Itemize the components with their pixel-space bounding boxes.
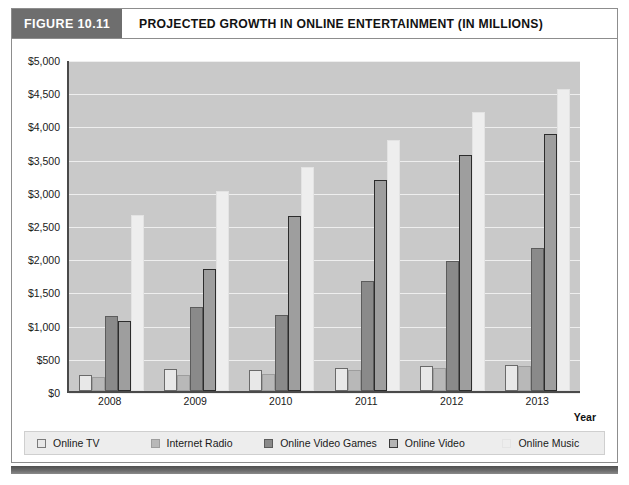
series-1-swatch: [151, 439, 160, 448]
y-axis-tick: $3,500: [28, 155, 60, 167]
x-axis-title: Year: [574, 411, 596, 423]
bar-group: [154, 61, 239, 391]
x-axis-tick: 2012: [409, 395, 495, 407]
legend-item[interactable]: Online Music: [490, 437, 604, 449]
bar-groups: [69, 61, 580, 391]
bar: [557, 89, 570, 391]
bar: [249, 370, 262, 391]
y-axis-labels: $0$500$1,000$1,500$2,000$2,500$3,000$3,5…: [12, 61, 64, 393]
y-axis-tick: $2,000: [28, 254, 60, 266]
bar: [446, 261, 459, 391]
y-axis-tick: $3,000: [28, 188, 60, 200]
bar: [301, 167, 314, 391]
bar: [262, 374, 275, 391]
y-axis-tick: $5,000: [28, 55, 60, 67]
y-axis-tick: $4,000: [28, 121, 60, 133]
bar: [420, 366, 433, 391]
legend-label: Online Music: [518, 437, 579, 449]
legend-item[interactable]: Online Video: [377, 437, 491, 449]
bar: [79, 375, 92, 391]
bar: [518, 366, 531, 391]
figure-card: FIGURE 10.11 PROJECTED GROWTH IN ONLINE …: [11, 8, 618, 463]
x-axis-tick: 2010: [238, 395, 324, 407]
bar: [387, 140, 400, 391]
bottom-rule: [11, 466, 618, 474]
x-axis-tick: 2013: [495, 395, 581, 407]
bar: [275, 315, 288, 391]
bar: [433, 368, 446, 391]
bar: [361, 281, 374, 391]
chart-legend: Online TVInternet RadioOnline Video Game…: [24, 431, 605, 455]
bar: [335, 368, 348, 391]
series-2-swatch: [264, 439, 273, 448]
legend-label: Online Video: [405, 437, 465, 449]
figure-title: PROJECTED GROWTH IN ONLINE ENTERTAINMENT…: [122, 9, 617, 38]
x-axis-tick: 2011: [324, 395, 410, 407]
bar: [505, 365, 518, 391]
bar: [348, 370, 361, 391]
bar: [459, 155, 472, 391]
bar: [190, 307, 203, 391]
series-0-swatch: [37, 439, 46, 448]
y-axis-tick: $4,500: [28, 88, 60, 100]
bar: [203, 269, 216, 391]
x-axis-tick: 2008: [67, 395, 153, 407]
legend-item[interactable]: Internet Radio: [139, 437, 253, 449]
bar: [472, 112, 485, 391]
bar: [92, 377, 105, 391]
gridline: [69, 393, 580, 394]
legend-label: Internet Radio: [167, 437, 233, 449]
legend-label: Online Video Games: [280, 437, 377, 449]
figure-number-tag: FIGURE 10.11: [12, 9, 122, 38]
bar: [216, 191, 229, 391]
bar-group: [69, 61, 154, 391]
y-axis-tick: $1,500: [28, 287, 60, 299]
bar: [118, 321, 131, 391]
chart-body: $0$500$1,000$1,500$2,000$2,500$3,000$3,5…: [12, 40, 617, 462]
bar-group: [495, 61, 580, 391]
figure-root: FIGURE 10.11 PROJECTED GROWTH IN ONLINE …: [0, 0, 629, 485]
bar-group: [410, 61, 495, 391]
plot-area: [67, 61, 580, 393]
y-axis-tick: $2,500: [28, 221, 60, 233]
legend-item[interactable]: Online TV: [25, 437, 139, 449]
figure-header: FIGURE 10.11 PROJECTED GROWTH IN ONLINE …: [12, 9, 617, 39]
legend-label: Online TV: [53, 437, 100, 449]
bar: [288, 216, 301, 391]
bar: [105, 316, 118, 391]
bar-group: [239, 61, 324, 391]
x-axis-labels: 200820092010201120122013: [67, 395, 580, 407]
bar: [177, 375, 190, 391]
y-axis-tick: $0: [48, 387, 60, 399]
bar: [374, 180, 387, 391]
series-4-swatch: [502, 439, 511, 448]
bar: [544, 134, 557, 391]
y-axis-tick: $500: [37, 354, 60, 366]
bar-group: [325, 61, 410, 391]
bar: [531, 248, 544, 391]
y-axis-tick: $1,000: [28, 321, 60, 333]
bar: [131, 215, 144, 391]
x-axis-tick: 2009: [153, 395, 239, 407]
series-3-swatch: [389, 439, 398, 448]
legend-item[interactable]: Online Video Games: [252, 437, 377, 449]
bar: [164, 369, 177, 391]
